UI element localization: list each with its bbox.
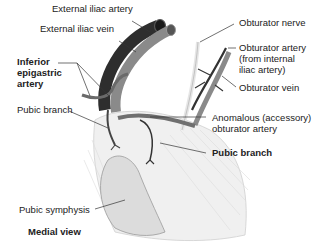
- label-obturator-vein: Obturator vein: [239, 82, 299, 93]
- label-obturator-artery-line2: (from internal: [239, 53, 295, 64]
- label-inferior-epigastric-line2: epigastric: [17, 67, 62, 78]
- label-inferior-epigastric-line1: Inferior: [17, 56, 50, 67]
- label-anomalous-line1: Anomalous (accessory): [212, 112, 311, 123]
- label-obturator-artery-line1: Obturator artery: [239, 42, 306, 53]
- label-pubic-symphysis: Pubic symphysis: [19, 204, 90, 215]
- label-obturator-artery-line3: iliac artery): [239, 64, 285, 75]
- label-external-iliac-vein: External iliac vein: [40, 23, 114, 34]
- label-pubic-branch-left: Pubic branch: [17, 104, 72, 115]
- view-label: Medial view: [28, 226, 81, 237]
- label-pubic-branch-right: Pubic branch: [212, 147, 272, 158]
- label-obturator-nerve: Obturator nerve: [239, 17, 306, 28]
- label-inferior-epigastric-line3: artery: [17, 78, 43, 89]
- label-anomalous-line2: obturator artery: [212, 123, 277, 134]
- label-external-iliac-artery: External iliac artery: [52, 3, 133, 14]
